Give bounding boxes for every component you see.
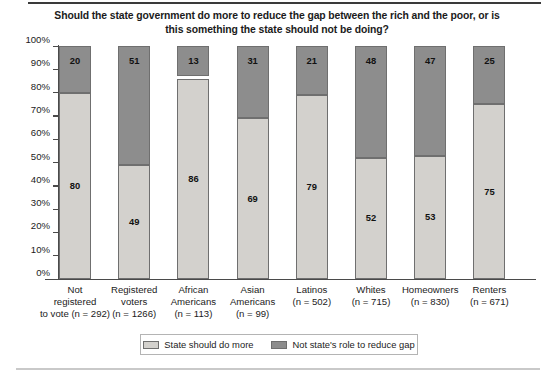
bar-segment-value: 31 [247, 56, 257, 65]
bar-segment-value: 86 [188, 174, 198, 183]
bar-group[interactable]: 4753 [414, 46, 446, 279]
y-axis-tick-mark [53, 185, 58, 186]
y-axis-tick-label: 70% [2, 104, 50, 115]
bar-segment-value: 20 [70, 56, 80, 65]
bar-segment-not-state-role[interactable]: 48 [355, 46, 387, 158]
bar-segment-value: 75 [484, 187, 494, 196]
y-axis-tick-label: 30% [2, 197, 50, 208]
legend-label: State should do more [164, 339, 253, 350]
y-axis-tick-mark [53, 255, 58, 256]
chart-page: Should the state government do more to r… [0, 0, 553, 374]
bar-group[interactable]: 4852 [355, 46, 387, 279]
chart-legend: State should do moreNot state's role to … [140, 334, 418, 355]
bar-segment-value: 80 [70, 181, 80, 190]
y-axis-tick-label: 0% [2, 267, 50, 278]
bar-segment-not-state-role[interactable]: 25 [473, 46, 505, 104]
bar-group[interactable]: 2080 [59, 46, 91, 279]
chart-title: Should the state government do more to r… [46, 9, 508, 37]
bar-segment-state-should-do-more[interactable]: 69 [237, 118, 269, 279]
bar-group[interactable]: 5149 [118, 46, 150, 279]
x-axis-category-label: Renters (n = 671) [437, 284, 541, 308]
y-axis-tick-label: 40% [2, 174, 50, 185]
bar-segment-state-should-do-more[interactable]: 53 [414, 156, 446, 279]
y-axis-tick-label: 10% [2, 244, 50, 255]
bar-segment-value: 69 [247, 194, 257, 203]
bar-segment-not-state-role[interactable]: 20 [59, 46, 91, 93]
bar-segment-value: 53 [425, 213, 435, 222]
bar-segment-not-state-role[interactable]: 31 [237, 46, 269, 118]
plot-area: 20805149138631692179485247532575 [59, 46, 536, 279]
y-axis-tick-label: 50% [2, 151, 50, 162]
bar-segment-state-should-do-more[interactable]: 75 [473, 104, 505, 279]
bar-segment-value: 49 [129, 217, 139, 226]
legend-item[interactable]: State should do more [143, 339, 253, 350]
bar-segment-not-state-role[interactable]: 13 [177, 46, 209, 76]
bar-group[interactable]: 3169 [237, 46, 269, 279]
bar-segment-value: 51 [129, 56, 139, 65]
y-axis-tick-mark [53, 92, 58, 93]
top-divider [28, 2, 541, 4]
bar-segment-state-should-do-more[interactable]: 49 [118, 165, 150, 279]
bar-segment-value: 21 [307, 56, 317, 65]
bottom-divider [16, 368, 540, 370]
bar-segment-state-should-do-more[interactable]: 86 [177, 79, 209, 279]
y-axis-tick-label: 100% [2, 34, 50, 45]
bar-segment-value: 25 [484, 56, 494, 65]
y-axis-tick-mark [53, 209, 58, 210]
y-axis-tick-mark [53, 139, 58, 140]
y-axis-tick-mark [53, 115, 58, 116]
bar-segment-not-state-role[interactable]: 47 [414, 46, 446, 156]
legend-swatch-icon [143, 341, 159, 349]
legend-item[interactable]: Not state's role to reduce gap [271, 339, 414, 350]
y-axis-tick-mark [53, 162, 58, 163]
bar-group[interactable]: 2575 [473, 46, 505, 279]
y-axis-tick-label: 90% [2, 57, 50, 68]
bar-segment-value: 13 [188, 56, 198, 65]
legend-swatch-icon [271, 341, 287, 349]
bar-segment-not-state-role[interactable]: 21 [296, 46, 328, 95]
bar-group[interactable]: 2179 [296, 46, 328, 279]
bar-segment-value: 79 [307, 182, 317, 191]
bar-segment-state-should-do-more[interactable]: 52 [355, 158, 387, 279]
bar-segment-value: 48 [366, 56, 376, 65]
bar-segment-state-should-do-more[interactable]: 80 [59, 93, 91, 279]
y-axis-tick-mark [53, 232, 58, 233]
legend-label: Not state's role to reduce gap [292, 339, 414, 350]
bar-segment-value: 47 [425, 56, 435, 65]
x-axis-line [45, 279, 536, 280]
y-axis-tick-mark [53, 46, 58, 47]
bar-segment-value: 52 [366, 214, 376, 223]
y-axis-tick-mark [53, 279, 58, 280]
bar-group[interactable]: 1386 [177, 46, 209, 279]
bar-segment-state-should-do-more[interactable]: 79 [296, 95, 328, 279]
y-axis-tick-mark [53, 69, 58, 70]
y-axis-tick-label: 80% [2, 81, 50, 92]
y-axis-tick-label: 60% [2, 127, 50, 138]
y-axis-tick-label: 20% [2, 220, 50, 231]
bar-segment-not-state-role[interactable]: 51 [118, 46, 150, 165]
